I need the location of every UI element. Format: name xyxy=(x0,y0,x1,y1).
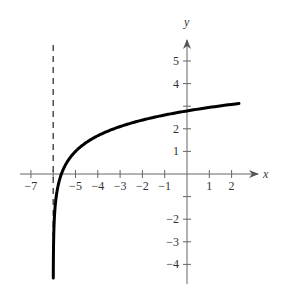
x-tick-label: 1 xyxy=(206,179,212,193)
y-tick-label: 5 xyxy=(173,54,179,68)
y-tick-label: 1 xyxy=(173,144,179,158)
axes xyxy=(20,40,258,284)
y-tick-label: 2 xyxy=(173,122,179,136)
log-function-graph: −7−5−4−3−2−112−4−3−21245xy xyxy=(0,0,285,288)
x-tick-label: −2 xyxy=(136,179,149,193)
x-tick-label: −1 xyxy=(158,179,171,193)
y-axis-label: y xyxy=(183,15,190,29)
x-tick-label: −4 xyxy=(91,179,104,193)
x-tick-label: 2 xyxy=(229,179,235,193)
x-tick-label: −5 xyxy=(69,179,82,193)
y-tick-label: 4 xyxy=(173,77,179,91)
x-tick-label: −3 xyxy=(114,179,127,193)
tick-labels: −7−5−4−3−2−112−4−3−21245xy xyxy=(25,15,269,271)
y-tick-label: −2 xyxy=(166,212,179,226)
y-tick-label: −4 xyxy=(166,257,179,271)
x-tick-label: −7 xyxy=(25,179,38,193)
y-tick-label: −3 xyxy=(166,235,179,249)
x-axis-label: x xyxy=(262,167,269,181)
